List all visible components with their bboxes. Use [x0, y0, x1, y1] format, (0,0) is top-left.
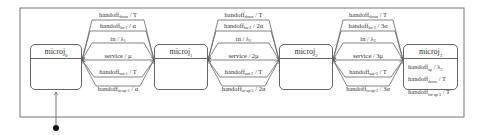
state-micro2: microj2 [279, 44, 333, 90]
transition-label: in / λ2 [360, 36, 375, 43]
transition-label: service / 2μ [228, 53, 258, 60]
state-micro1: microj1 [154, 44, 208, 90]
state-title: microj2 [280, 45, 332, 59]
transition-label: handoffin-up-3 / 3α [346, 86, 390, 93]
internal-transition: handoffdown / T [408, 74, 453, 86]
transition-label: handoffho-3 / 3α [348, 23, 387, 30]
state-title: microj1 [155, 45, 207, 59]
transition-label: handoffdown / T [225, 12, 263, 19]
transition-label: handoffout-1 / T [99, 69, 136, 76]
transition-label: in / λ2 [236, 36, 251, 43]
transition-label: handoffin-up-2 / 2α [222, 86, 266, 93]
internal-transition: handoffint-up-3 / T [408, 87, 453, 99]
transition-label: handoffout-2 / T [225, 69, 262, 76]
transition-label: handoffho-2 / 2α [224, 23, 263, 30]
transition-label: service / 3μ [353, 53, 383, 60]
transition-label: handoffin-up-1 / α [98, 86, 138, 93]
state-internal-transitions: handoffup / λ3handoffdown / Thandoffint-… [404, 59, 457, 102]
state-internal-transitions [31, 59, 81, 65]
initial-state-dot [53, 125, 59, 131]
state-internal-transitions [155, 59, 207, 65]
transition-label: handoffdown / T [349, 12, 387, 19]
transition-label: in / λ1 [110, 36, 125, 43]
state-internal-transitions [280, 59, 332, 65]
state-title: microj3 [404, 45, 457, 59]
transition-label: handoffdown / T [99, 12, 137, 19]
transition-label: service / μ [105, 53, 132, 60]
transition-label: handoffho-1 / α [100, 23, 136, 30]
state-micro3: microj3handoffup / λ3handoffdown / Thand… [403, 44, 458, 90]
internal-transition: handoffup / λ3 [408, 62, 453, 74]
transition-label: handoffout-3 / T [349, 69, 386, 76]
state-title: microj0 [31, 45, 81, 59]
state-micro0: microj0 [30, 44, 82, 90]
